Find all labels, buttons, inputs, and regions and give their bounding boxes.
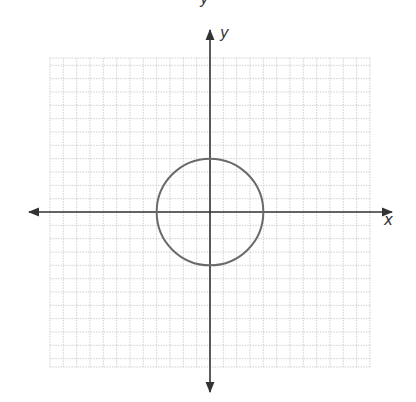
x-axis-label: x [383, 211, 393, 229]
cropped-top-label: y [199, 0, 210, 8]
y-axis-label: y [219, 24, 230, 42]
coordinate-plane: y x y [0, 0, 416, 402]
